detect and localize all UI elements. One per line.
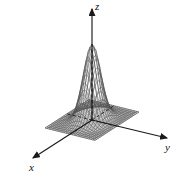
axis-label-x: x [29, 162, 34, 173]
plot-canvas [0, 0, 180, 178]
surface-plot-figure: z y x [0, 0, 180, 178]
axis-label-z: z [95, 1, 99, 12]
axis-label-y: y [165, 142, 170, 153]
